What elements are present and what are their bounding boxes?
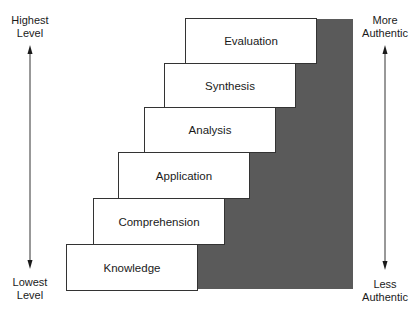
label-highest-level: Highest Level (0, 14, 65, 40)
right-double-arrow-icon (383, 45, 388, 270)
left-double-arrow-icon (28, 45, 33, 269)
label-line: More (350, 14, 416, 27)
label-lowest-level: Lowest Level (0, 276, 65, 302)
label-line: Level (0, 27, 65, 40)
label-line: Less (350, 278, 416, 291)
label-line: Highest (0, 14, 65, 27)
label-line: Level (0, 289, 65, 302)
label-line: Authentic (350, 27, 416, 40)
label-less-authentic: Less Authentic (350, 278, 416, 304)
axis-arrows (0, 0, 416, 312)
label-line: Lowest (0, 276, 65, 289)
label-line: Authentic (350, 291, 416, 304)
label-more-authentic: More Authentic (350, 14, 416, 40)
